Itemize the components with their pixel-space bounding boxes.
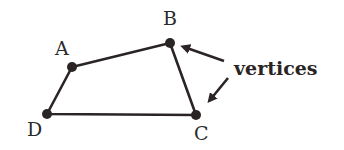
vertex-c-dot [191, 110, 201, 120]
vertex-d-dot [42, 109, 52, 119]
vertex-b-dot [165, 38, 175, 48]
vertices-annotation: vertices [233, 57, 318, 79]
arrow-to-c-icon [210, 78, 228, 100]
vertex-label-a: A [54, 37, 69, 59]
vertex-label-d: D [27, 118, 42, 140]
vertex-label-c: C [194, 122, 209, 144]
vertex-label-b: B [163, 7, 177, 29]
diagram-canvas: A B C D vertices [0, 0, 344, 150]
quadrilateral-diagram: A B C D vertices [0, 0, 344, 150]
quadrilateral-shape [47, 43, 196, 115]
vertex-a-dot [67, 62, 77, 72]
arrow-to-b-icon [184, 47, 224, 61]
